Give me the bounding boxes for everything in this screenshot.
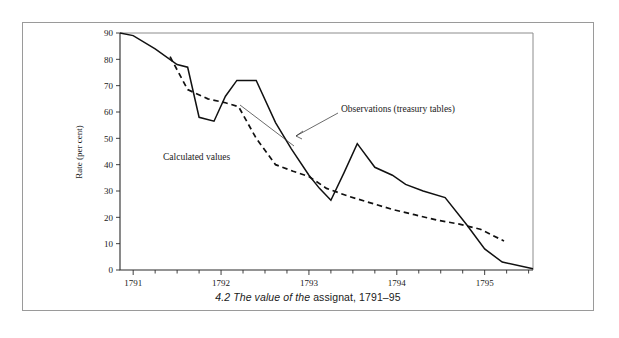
chart-figure: 0102030405060708090 17911792179317941795…	[0, 0, 619, 338]
observations-annotation: Observations (treasury tables)	[341, 104, 455, 115]
y-tick-label: 20	[104, 213, 114, 223]
y-axis-ticks: 0102030405060708090	[104, 28, 120, 275]
x-axis-tick-labels: 17911792179317941795	[124, 278, 494, 288]
y-tick-label: 80	[104, 55, 114, 65]
calculated-annotation: Calculated values	[163, 152, 231, 162]
series-dashed	[170, 57, 504, 241]
y-tick-label: 30	[104, 186, 114, 196]
caption-prefix: 4.2 The value of the	[215, 291, 313, 303]
x-tick-label: 1791	[124, 278, 142, 288]
y-tick-label: 10	[104, 239, 114, 249]
figure-page: 0102030405060708090 17911792179317941795…	[0, 0, 619, 338]
caption-suffix: , 1791–95	[353, 291, 401, 303]
caption-term: assignat	[313, 291, 353, 303]
series-solid	[120, 33, 533, 269]
y-tick-label: 40	[104, 160, 114, 170]
y-tick-label: 90	[104, 28, 114, 38]
x-tick-label: 1795	[476, 278, 495, 288]
y-axis-title: Rate (per cent)	[74, 125, 84, 178]
x-tick-label: 1793	[300, 278, 319, 288]
observations-arrowhead	[296, 131, 303, 139]
x-tick-label: 1794	[388, 278, 407, 288]
chart-series	[120, 33, 533, 269]
y-tick-label: 50	[104, 134, 114, 144]
y-tick-label: 60	[104, 107, 114, 117]
y-tick-label: 0	[109, 265, 114, 275]
x-tick-label: 1792	[212, 278, 230, 288]
annotation-leaders	[240, 105, 338, 146]
y-tick-label: 70	[104, 81, 114, 91]
observations-leader-line	[296, 113, 338, 136]
x-axis-ticks	[133, 270, 528, 275]
figure-caption: 4.2 The value of the assignat, 1791–95	[22, 291, 594, 303]
